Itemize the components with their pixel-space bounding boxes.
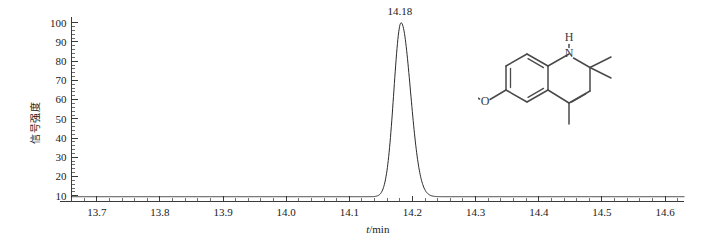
y-tick-label: 40 <box>56 132 68 144</box>
peak-retention-time-label: 14.18 <box>388 5 413 17</box>
oxygen-atom-label: O <box>481 94 490 108</box>
y-axis-title-container: 信号强度 <box>26 74 42 170</box>
y-tick-label: 10 <box>56 190 68 202</box>
x-tick-label: 13.8 <box>150 206 170 218</box>
x-axis-title: t/min <box>366 223 390 235</box>
x-tick-label: 14.0 <box>277 206 297 218</box>
nitrogen-hydrogen-group: N H <box>565 30 574 60</box>
y-tick-label: 30 <box>56 151 68 163</box>
gem-dimethyl-group <box>590 57 611 78</box>
hydrogen-atom-label: H <box>565 30 574 44</box>
dihydropyridine-ring <box>548 54 590 103</box>
y-tick-label: 60 <box>56 93 68 105</box>
y-tick-label: 80 <box>56 55 68 67</box>
y-tick-label: 100 <box>50 17 67 29</box>
x-tick-label: 14.3 <box>466 206 486 218</box>
y-tick-label: 90 <box>56 36 68 48</box>
x-tick-label: 14.4 <box>529 206 549 218</box>
benzene-ring <box>506 54 548 102</box>
chemical-structure-inset: N H O <box>478 30 658 130</box>
ethoxyquin-structure-drawing: N H O <box>478 30 658 130</box>
ethoxy-group: O <box>478 90 506 108</box>
chart-area: 102030405060708090100 13.713.813.914.014… <box>0 0 701 242</box>
y-tick-label: 70 <box>56 74 68 86</box>
x-tick-label: 13.7 <box>87 206 107 218</box>
x-tick-label: 14.5 <box>592 206 612 218</box>
chromatogram-figure: 102030405060708090100 13.713.813.914.014… <box>0 0 701 242</box>
x-axis-tick-labels: 13.713.813.914.014.114.214.314.414.514.6 <box>87 206 675 218</box>
y-axis-ticks <box>72 23 78 196</box>
y-tick-label: 50 <box>56 113 68 125</box>
y-axis-tick-labels: 102030405060708090100 <box>50 17 67 202</box>
x-tick-label: 14.6 <box>655 206 675 218</box>
x-tick-label: 13.9 <box>213 206 233 218</box>
x-tick-label: 14.1 <box>340 206 359 218</box>
x-tick-label: 14.2 <box>403 206 422 218</box>
x-axis-title-units: /min <box>369 223 390 235</box>
y-axis-title: 信号强度 <box>27 101 42 143</box>
y-tick-label: 20 <box>56 170 68 182</box>
